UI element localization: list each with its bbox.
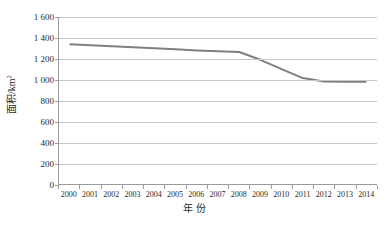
y-axis-tick — [55, 143, 59, 144]
x-axis-tick-label: 2004 — [146, 190, 162, 200]
x-axis-title: 年 份 — [0, 203, 389, 215]
x-axis-tick-label: 2008 — [231, 190, 247, 200]
x-axis-tick-label: 2001 — [82, 190, 98, 200]
gridline — [59, 17, 377, 18]
x-axis-tick — [249, 185, 250, 189]
x-axis-tick — [207, 185, 208, 189]
x-axis-tick-label: 2000 — [61, 190, 77, 200]
plot-area — [58, 17, 377, 185]
x-axis-tick — [292, 185, 293, 189]
x-axis-tick — [164, 185, 165, 189]
x-axis-tick — [377, 185, 378, 189]
x-axis-ticks — [58, 185, 378, 189]
y-axis-title: 面积/km2 — [0, 0, 22, 190]
x-axis-tick-label: 2009 — [252, 190, 268, 200]
x-axis-tick-label: 2003 — [124, 190, 140, 200]
y-axis-tick-labels: 02004006008001 0001 2001 4001 600 — [20, 0, 56, 200]
gridline — [59, 101, 377, 102]
y-axis-tick — [55, 59, 59, 60]
gridline — [59, 38, 377, 39]
y-axis-tick — [55, 101, 59, 102]
gridline — [59, 122, 377, 123]
gridline — [59, 59, 377, 60]
x-axis-tick-label: 2005 — [167, 190, 183, 200]
y-axis-tick — [55, 164, 59, 165]
x-axis-tick — [271, 185, 272, 189]
x-axis-tick — [79, 185, 80, 189]
x-axis-tick-label: 2006 — [188, 190, 204, 200]
line-chart: 面积/km2 02004006008001 0001 2001 4001 600… — [0, 0, 389, 227]
y-axis-title-text: 面积/km2 — [5, 76, 16, 115]
y-axis-tick-label: 200 — [41, 160, 55, 169]
gridline — [59, 143, 377, 144]
x-axis-tick — [334, 185, 335, 189]
y-axis-tick-label: 1 600 — [34, 13, 54, 22]
y-axis-tick — [55, 80, 59, 81]
y-axis-tick-label: 1 400 — [34, 34, 54, 43]
x-axis-tick-label: 2013 — [337, 190, 353, 200]
x-axis-tick-label: 2011 — [295, 190, 311, 200]
x-axis-tick-label: 2002 — [103, 190, 119, 200]
y-axis-tick — [55, 17, 59, 18]
x-axis-tick-labels: 2000200120022003200420052006200720082009… — [58, 190, 378, 202]
y-axis-tick-label: 1 000 — [34, 76, 54, 85]
x-axis-tick — [356, 185, 357, 189]
y-axis-tick — [55, 122, 59, 123]
y-axis-tick-label: 400 — [41, 139, 55, 148]
x-axis-tick-label: 2010 — [273, 190, 289, 200]
y-axis-tick-label: 600 — [41, 118, 55, 127]
y-axis-tick — [55, 38, 59, 39]
y-axis-tick-label: 800 — [41, 97, 55, 106]
gridline — [59, 164, 377, 165]
x-axis-tick — [58, 185, 59, 189]
x-axis-tick — [313, 185, 314, 189]
x-axis-tick — [101, 185, 102, 189]
gridline — [59, 80, 377, 81]
y-axis-tick-label: 0 — [50, 181, 55, 190]
x-axis-tick-label: 2014 — [358, 190, 374, 200]
x-axis-tick-label: 2012 — [316, 190, 332, 200]
x-axis-tick — [228, 185, 229, 189]
y-axis-tick-label: 1 200 — [34, 55, 54, 64]
x-axis-tick — [143, 185, 144, 189]
x-axis-tick — [122, 185, 123, 189]
x-axis-tick — [186, 185, 187, 189]
x-axis-tick-label: 2007 — [210, 190, 226, 200]
